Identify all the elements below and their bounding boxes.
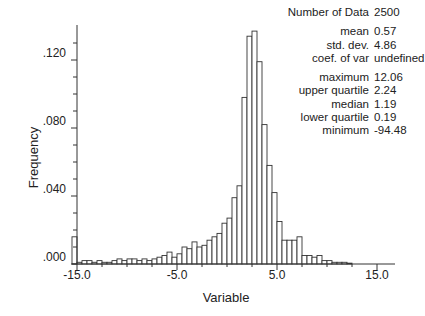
- y-axis-ticks: [71, 43, 77, 264]
- histogram-bar: [327, 261, 332, 264]
- histogram-bar: [137, 261, 142, 264]
- histogram-bar: [122, 261, 127, 264]
- stat-row: coef. of varundefined: [276, 52, 425, 65]
- histogram-bar: [172, 257, 177, 264]
- stat-row: median1.19: [276, 98, 425, 111]
- histogram-bar: [282, 240, 287, 264]
- histogram-bar: [322, 261, 327, 264]
- stat-row: maximum12.06: [276, 71, 425, 84]
- histogram-bar: [82, 261, 87, 264]
- stat-value: 0.19: [374, 111, 396, 124]
- histogram-bar: [277, 222, 282, 265]
- histogram-bar: [217, 233, 222, 264]
- histogram-bar: [272, 193, 277, 264]
- histogram-bar: [182, 247, 187, 264]
- histogram-bar: [307, 256, 312, 265]
- stat-value: 1.19: [374, 98, 396, 111]
- stat-label: lower quartile: [276, 111, 374, 124]
- histogram-bar: [237, 186, 242, 264]
- histogram-bar: [187, 249, 192, 264]
- histogram-bar: [252, 31, 257, 264]
- y-axis-label: Frequency: [26, 123, 41, 193]
- histogram-bar: [212, 237, 217, 264]
- stat-value: 0.57: [374, 25, 396, 38]
- stat-label: std. dev.: [276, 39, 374, 52]
- stat-value: -94.48: [374, 124, 407, 137]
- stat-row: upper quartile2.24: [276, 84, 425, 97]
- histogram-bar: [317, 256, 322, 265]
- histogram-bar: [192, 242, 197, 264]
- histogram-bar: [297, 237, 302, 264]
- stat-label: coef. of var: [276, 52, 374, 65]
- stat-value: undefined: [374, 52, 425, 65]
- histogram-bar: [117, 259, 122, 264]
- histogram-bar: [222, 223, 227, 264]
- x-tick-label: 5.0: [257, 268, 297, 282]
- y-tick-label: .120: [26, 46, 66, 60]
- x-axis-label: Variable: [176, 290, 276, 305]
- stat-row: minimum-94.48: [276, 124, 425, 137]
- x-tick-label: -5.0: [157, 268, 197, 282]
- y-tick-label: .000: [26, 250, 66, 264]
- histogram-bar: [292, 240, 297, 264]
- histogram-bar: [97, 261, 102, 264]
- histogram-bar: [207, 240, 212, 264]
- histogram-bar: [147, 261, 152, 264]
- histogram-bar: [262, 125, 267, 264]
- histogram-bar: [112, 261, 117, 264]
- x-axis-ticks: [77, 264, 377, 270]
- histogram-bar: [287, 240, 292, 264]
- histogram-bar: [157, 257, 162, 264]
- x-tick-label: -15.0: [57, 268, 97, 282]
- stat-value: 2.24: [374, 84, 396, 97]
- histogram-bar: [202, 245, 207, 264]
- stat-value: 12.06: [374, 71, 403, 84]
- statistics-panel: Number of Data2500 mean0.57 std. dev.4.8…: [276, 6, 425, 138]
- histogram-bar: [177, 254, 182, 264]
- stat-row: lower quartile0.19: [276, 111, 425, 124]
- stat-label: minimum: [276, 124, 374, 137]
- stat-value: 4.86: [374, 39, 396, 52]
- histogram-bar: [167, 252, 172, 264]
- histogram-bar: [247, 36, 252, 264]
- histogram-bar: [242, 97, 247, 264]
- histogram-bar: [142, 259, 147, 264]
- stat-row: mean0.57: [276, 25, 425, 38]
- stat-label: upper quartile: [276, 84, 374, 97]
- stat-label: mean: [276, 25, 374, 38]
- histogram-bar: [127, 259, 132, 264]
- histogram-bar: [227, 218, 232, 264]
- histogram-bar: [257, 62, 262, 264]
- histogram-bar: [267, 165, 272, 264]
- stat-label: median: [276, 98, 374, 111]
- stat-row: Number of Data2500: [276, 6, 425, 19]
- histogram-bar: [87, 261, 92, 264]
- histogram-bar: [232, 198, 237, 264]
- histogram-bar: [197, 247, 202, 264]
- histogram-bar: [132, 259, 137, 264]
- stat-label: maximum: [276, 71, 374, 84]
- histogram-bar: [72, 237, 77, 264]
- x-tick-label: 15.0: [357, 268, 397, 282]
- histogram-bar: [302, 256, 307, 265]
- histogram-bar: [162, 256, 167, 265]
- stat-row: std. dev.4.86: [276, 39, 425, 52]
- stat-label: Number of Data: [276, 6, 374, 19]
- stat-value: 2500: [374, 6, 400, 19]
- histogram-bar: [152, 259, 157, 264]
- histogram-bar: [312, 257, 317, 264]
